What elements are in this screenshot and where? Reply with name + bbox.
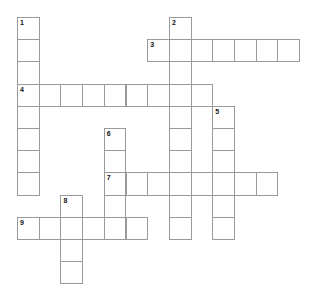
crossword-cell[interactable] — [60, 217, 83, 240]
crossword-cell[interactable] — [169, 61, 192, 84]
crossword-cell[interactable] — [39, 217, 62, 240]
crossword-cell[interactable] — [17, 172, 40, 195]
crossword-grid: 142356789 — [0, 0, 309, 297]
crossword-cell[interactable]: 2 — [169, 17, 192, 40]
crossword-cell[interactable] — [17, 150, 40, 173]
crossword-cell[interactable] — [60, 261, 83, 284]
crossword-cell[interactable] — [17, 61, 40, 84]
crossword-cell[interactable] — [169, 106, 192, 129]
crossword-cell[interactable] — [234, 39, 257, 62]
crossword-cell[interactable] — [17, 106, 40, 129]
clue-number: 9 — [20, 219, 24, 226]
crossword-cell[interactable] — [17, 128, 40, 151]
clue-number: 4 — [20, 86, 24, 93]
crossword-cell[interactable] — [104, 195, 127, 218]
crossword-cell[interactable] — [126, 217, 149, 240]
crossword-cell[interactable] — [104, 217, 127, 240]
crossword-cell[interactable] — [256, 39, 279, 62]
crossword-cell[interactable] — [82, 84, 105, 107]
crossword-cell[interactable] — [60, 84, 83, 107]
crossword-cell[interactable]: 1 — [17, 17, 40, 40]
crossword-cell[interactable] — [147, 84, 170, 107]
crossword-cell[interactable]: 3 — [147, 39, 170, 62]
crossword-cell[interactable] — [17, 39, 40, 62]
clue-number: 8 — [63, 197, 67, 204]
crossword-cell[interactable] — [104, 150, 127, 173]
crossword-cell[interactable] — [191, 172, 214, 195]
crossword-cell[interactable]: 5 — [212, 106, 235, 129]
clue-number: 1 — [20, 19, 24, 26]
crossword-cell[interactable] — [191, 84, 214, 107]
crossword-cell[interactable] — [60, 239, 83, 262]
clue-number: 5 — [215, 108, 219, 115]
crossword-cell[interactable] — [39, 84, 62, 107]
crossword-cell[interactable]: 4 — [17, 84, 40, 107]
crossword-cell[interactable] — [126, 84, 149, 107]
clue-number: 2 — [172, 19, 176, 26]
crossword-cell[interactable] — [256, 172, 279, 195]
crossword-cell[interactable]: 6 — [104, 128, 127, 151]
crossword-cell[interactable] — [191, 39, 214, 62]
crossword-cell[interactable] — [104, 84, 127, 107]
crossword-cell[interactable] — [169, 39, 192, 62]
crossword-cell[interactable] — [169, 84, 192, 107]
crossword-cell[interactable] — [212, 217, 235, 240]
crossword-cell[interactable]: 8 — [60, 195, 83, 218]
crossword-cell[interactable] — [169, 128, 192, 151]
crossword-cell[interactable] — [234, 172, 257, 195]
crossword-cell[interactable] — [169, 150, 192, 173]
crossword-cell[interactable] — [212, 150, 235, 173]
crossword-cell[interactable] — [212, 128, 235, 151]
crossword-cell[interactable]: 9 — [17, 217, 40, 240]
crossword-cell[interactable] — [169, 172, 192, 195]
clue-number: 6 — [107, 130, 111, 137]
crossword-cell[interactable] — [126, 172, 149, 195]
clue-number: 3 — [150, 41, 154, 48]
crossword-cell[interactable]: 7 — [104, 172, 127, 195]
crossword-cell[interactable] — [147, 172, 170, 195]
crossword-cell[interactable] — [169, 195, 192, 218]
crossword-cell[interactable] — [169, 217, 192, 240]
clue-number: 7 — [107, 174, 111, 181]
crossword-cell[interactable] — [212, 39, 235, 62]
crossword-cell[interactable] — [212, 195, 235, 218]
crossword-cell[interactable] — [212, 172, 235, 195]
crossword-cell[interactable] — [277, 39, 300, 62]
crossword-cell[interactable] — [82, 217, 105, 240]
